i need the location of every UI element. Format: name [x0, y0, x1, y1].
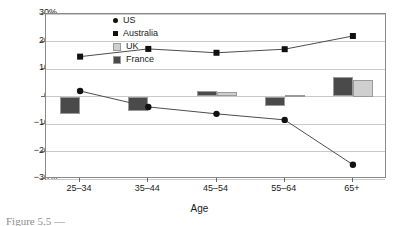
x-tick-label: 55–64: [249, 183, 319, 193]
x-tick-mark: [284, 178, 285, 182]
marker-us-1: [145, 104, 151, 110]
legend-label-uk: UK: [126, 41, 139, 52]
x-tick-mark: [352, 178, 353, 182]
marker-us-4: [350, 162, 356, 168]
uk-bar-swatch-icon: [113, 43, 121, 51]
figure-caption: Figure 5.5 —: [6, 215, 394, 226]
x-tick-label: 65+: [317, 183, 387, 193]
chart-figure: 30%20%10%0%−10%−20%−30% 25–3435–4445–545…: [0, 0, 399, 226]
marker-us-0: [77, 88, 83, 94]
france-bar-swatch-icon: [113, 56, 121, 64]
legend-column-left: US Australia: [113, 14, 189, 40]
circle-marker-icon: [113, 18, 118, 23]
legend-label-us: US: [123, 15, 136, 26]
x-tick-mark: [216, 178, 217, 182]
square-marker-icon: [113, 31, 118, 36]
legend-item-france: France: [113, 53, 193, 66]
marker-australia-3: [282, 46, 288, 52]
marker-us-3: [282, 117, 288, 123]
marker-australia-4: [350, 33, 356, 39]
line-us: [80, 91, 353, 165]
legend-column-right: UK France: [113, 40, 193, 66]
x-axis-title: Age: [0, 203, 399, 214]
marker-australia-0: [77, 54, 83, 60]
x-tick-label: 25–34: [44, 183, 114, 193]
legend-item-uk: UK: [113, 40, 193, 53]
x-tick-label: 35–44: [112, 183, 182, 193]
marker-us-2: [213, 111, 219, 117]
y-tick-mark: [41, 178, 45, 179]
legend-item-us: US: [113, 14, 189, 27]
legend-label-france: France: [126, 54, 154, 65]
chart-legend: US Australia UK France: [113, 14, 271, 66]
x-tick-label: 45–54: [181, 183, 251, 193]
legend-label-australia: Australia: [123, 28, 158, 39]
x-tick-mark: [79, 178, 80, 182]
x-tick-mark: [147, 178, 148, 182]
legend-item-australia: Australia: [113, 27, 189, 40]
